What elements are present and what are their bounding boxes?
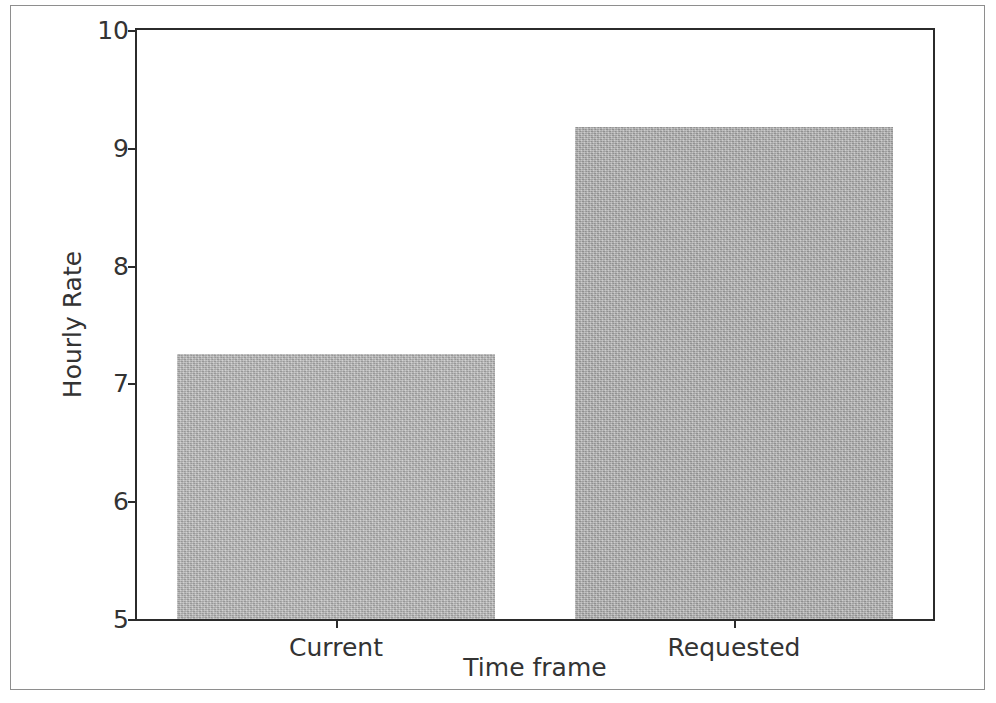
y-axis-tick-mark bbox=[128, 148, 137, 150]
y-axis-tick-mark bbox=[128, 266, 137, 268]
plot-area: 5678910CurrentRequested bbox=[135, 28, 935, 621]
y-axis-tick-mark bbox=[128, 30, 137, 32]
bars-layer bbox=[137, 30, 933, 619]
y-axis-tick-label: 10 bbox=[97, 18, 129, 43]
y-axis-tick-label: 8 bbox=[113, 253, 129, 278]
bar-current bbox=[177, 354, 495, 619]
bar-chart-figure: 5678910CurrentRequested Time frame Hourl… bbox=[0, 0, 996, 703]
y-axis-tick-mark bbox=[128, 501, 137, 503]
y-axis-tick-label: 9 bbox=[113, 135, 129, 160]
y-axis-tick-label: 7 bbox=[113, 371, 129, 396]
y-axis-label: Hourly Rate bbox=[60, 28, 85, 621]
bar-requested bbox=[575, 127, 893, 619]
y-axis-tick-label: 6 bbox=[113, 489, 129, 514]
x-axis-tick-mark bbox=[734, 619, 736, 628]
y-axis-tick-mark bbox=[128, 619, 137, 621]
x-axis-label: Time frame bbox=[135, 655, 935, 680]
y-axis-tick-mark bbox=[128, 383, 137, 385]
x-axis-tick-mark bbox=[336, 619, 338, 628]
y-axis-tick-label: 5 bbox=[113, 607, 129, 632]
